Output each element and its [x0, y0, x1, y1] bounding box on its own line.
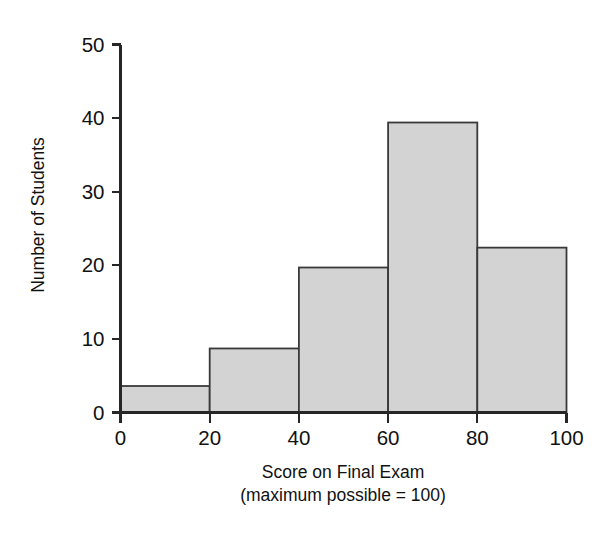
y-tick-label: 0 [93, 401, 104, 424]
x-tick-label: 80 [466, 426, 489, 449]
bars-group [121, 123, 567, 413]
x-tick-label: 60 [377, 426, 400, 449]
y-tick-marks [112, 45, 121, 413]
y-tick-label: 50 [82, 33, 105, 56]
y-axis-title: Number of Students [28, 137, 48, 293]
histogram-bar [388, 123, 477, 413]
y-tick-label: 30 [82, 180, 105, 203]
x-tick-label: 100 [549, 426, 583, 449]
histogram-figure: 020406080100 01020304050 Number of Stude… [0, 0, 603, 542]
x-tick-marks [121, 413, 567, 423]
histogram-bar [210, 348, 299, 412]
x-axis-title: Score on Final Exam [262, 462, 424, 482]
x-tick-label: 20 [198, 426, 221, 449]
plot-canvas: 020406080100 01020304050 Number of Stude… [0, 0, 603, 542]
histogram-bar [477, 248, 566, 413]
y-tick-label: 40 [82, 106, 105, 129]
y-tick-label: 10 [82, 327, 105, 350]
y-tick-label: 20 [82, 253, 105, 276]
x-tick-label: 40 [287, 426, 310, 449]
x-axis-subtitle: (maximum possible = 100) [240, 485, 446, 505]
x-tick-label: 0 [115, 426, 126, 449]
x-tick-labels: 020406080100 [115, 426, 584, 449]
histogram-bar [121, 386, 210, 412]
y-tick-labels: 01020304050 [82, 33, 105, 424]
histogram-bar [299, 268, 388, 413]
